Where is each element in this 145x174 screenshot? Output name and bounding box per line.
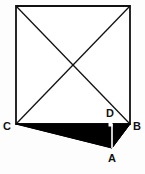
vertex-notch-D bbox=[109, 122, 113, 127]
geometry-figure: C D B A bbox=[0, 0, 145, 174]
vertex-label-D: D bbox=[106, 107, 114, 119]
vertex-label-A: A bbox=[108, 152, 116, 164]
figure-canvas: C D B A bbox=[0, 0, 145, 174]
vertex-label-B: B bbox=[133, 120, 141, 132]
vertex-label-C: C bbox=[3, 120, 11, 132]
